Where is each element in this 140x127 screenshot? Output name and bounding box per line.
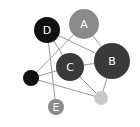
node-b: B [94, 43, 130, 79]
node-n1 [23, 70, 39, 86]
node-d: D [34, 17, 60, 43]
node-label: D [43, 24, 51, 37]
network-graph: DABCE [0, 0, 140, 127]
node-e: E [48, 99, 64, 115]
node-n2 [94, 91, 108, 105]
node-c: C [56, 53, 84, 81]
node-circle [94, 91, 108, 105]
node-label: A [80, 18, 88, 31]
node-label: C [66, 61, 74, 74]
node-label: B [108, 55, 116, 68]
node-label: E [53, 101, 60, 114]
node-a: A [69, 9, 99, 39]
nodes-layer: DABCE [23, 9, 130, 115]
node-circle [23, 70, 39, 86]
